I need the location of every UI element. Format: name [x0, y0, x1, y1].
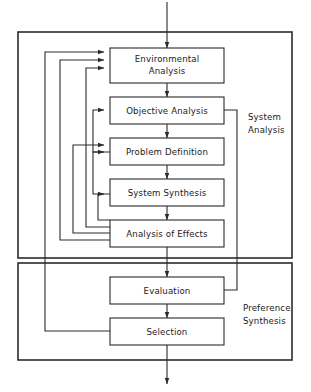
process-flow-diagram: Environmental Analysis Objective Analysi…: [0, 0, 311, 392]
node-evaluation-label: Evaluation: [144, 286, 191, 296]
group-system-analysis-label: System Analysis: [248, 112, 285, 135]
node-selection[interactable]: Selection: [110, 318, 224, 345]
node-problem-definition-label: Problem Definition: [126, 147, 208, 157]
edge-selection-to-environmental: [45, 52, 110, 331]
group-system-analysis-label-line2: Analysis: [248, 125, 285, 135]
group-system-analysis-label-line1: System: [248, 112, 281, 122]
node-objective-analysis-label: Objective Analysis: [126, 106, 208, 116]
node-problem-definition[interactable]: Problem Definition: [110, 138, 224, 165]
node-analysis-of-effects-label: Analysis of Effects: [126, 229, 208, 239]
edge-effects-to-environmental: [60, 60, 110, 240]
flowchart-canvas: Environmental Analysis Objective Analysi…: [0, 0, 311, 392]
group-preference-synthesis-label: Preference Synthesis: [243, 303, 291, 326]
edge-synthesis-to-problem: [93, 152, 110, 194]
node-system-synthesis[interactable]: System Synthesis: [110, 179, 224, 206]
node-analysis-of-effects[interactable]: Analysis of Effects: [110, 220, 224, 247]
node-objective-analysis[interactable]: Objective Analysis: [110, 97, 224, 124]
edge-effects-to-synthesis: [98, 194, 110, 220]
node-evaluation[interactable]: Evaluation: [110, 277, 224, 304]
node-environmental-analysis-label-line2: Analysis: [149, 66, 186, 76]
node-environmental-analysis-label-line1: Environmental: [135, 54, 199, 64]
edge-problem-to-objective-return: [93, 110, 110, 152]
node-system-synthesis-label: System Synthesis: [128, 188, 207, 198]
group-preference-synthesis-label-line1: Preference: [243, 303, 291, 313]
node-environmental-analysis[interactable]: Environmental Analysis: [110, 48, 224, 83]
node-selection-label: Selection: [147, 327, 188, 337]
group-preference-synthesis-label-line2: Synthesis: [243, 316, 286, 326]
